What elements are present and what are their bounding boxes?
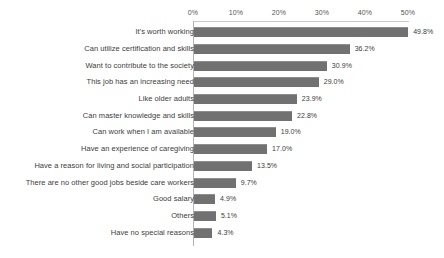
bar-row: Want to contribute to the society30.9% [0, 57, 444, 74]
bar [194, 27, 408, 37]
bar-row: Can work when I am available19.0% [0, 124, 444, 141]
bar-and-value: 36.2% [194, 44, 375, 54]
category-label: Can master knowledge and skills [83, 111, 194, 121]
bar [194, 127, 276, 137]
category-label: Have no special reasons [111, 228, 194, 238]
bar [194, 61, 327, 71]
bar [194, 194, 215, 204]
bar-and-value: 49.8% [194, 27, 433, 37]
bar-value-label: 13.5% [257, 161, 277, 171]
x-axis-rule [193, 21, 409, 22]
bar-row: Can master knowledge and skills22.8% [0, 107, 444, 124]
bar-and-value: 23.9% [194, 94, 322, 104]
category-label: Like older adults [139, 94, 194, 104]
bar-chart: 0%10%20%30%40%50% It's worth working49.8… [0, 0, 444, 258]
bar-and-value: 29.0% [194, 77, 344, 87]
bar [194, 77, 319, 87]
bar-row: Good salary4.9% [0, 191, 444, 208]
bar-rows: It's worth working49.8%Can utilize certi… [0, 24, 444, 241]
bar-and-value: 4.9% [194, 194, 236, 204]
bar-row: Have a reason for living and social part… [0, 158, 444, 175]
bar-value-label: 30.9% [332, 61, 352, 71]
x-axis-tick-label: 50% [401, 8, 415, 17]
bar-value-label: 49.8% [413, 27, 433, 37]
category-label: This job has an increasing need [87, 77, 194, 87]
bar-and-value: 5.1% [194, 211, 237, 221]
category-label: Have a reason for living and social part… [34, 161, 194, 171]
bar [194, 178, 236, 188]
bar-row: There are no other good jobs beside care… [0, 174, 444, 191]
bar-row: Have no special reasons4.3% [0, 224, 444, 241]
category-label: Want to contribute to the society [85, 61, 194, 71]
category-label: Others [171, 211, 194, 221]
bar-and-value: 4.3% [194, 228, 234, 238]
bar-and-value: 17.0% [194, 144, 292, 154]
category-label: Can work when I am available [93, 127, 194, 137]
category-label: Can utilize certification and skills [84, 44, 194, 54]
bar-value-label: 23.9% [302, 94, 322, 104]
bar-row: Have an experience of caregiving17.0% [0, 141, 444, 158]
bar-row: Can utilize certification and skills36.2… [0, 41, 444, 58]
x-axis-tick-label: 20% [272, 8, 286, 17]
bar-value-label: 22.8% [297, 111, 317, 121]
bar-row: It's worth working49.8% [0, 24, 444, 41]
bar-row: Like older adults23.9% [0, 91, 444, 108]
bar [194, 111, 292, 121]
bar-value-label: 29.0% [324, 77, 344, 87]
bar-value-label: 19.0% [281, 127, 301, 137]
bar-and-value: 19.0% [194, 127, 301, 137]
bar-and-value: 9.7% [194, 178, 257, 188]
x-axis-tick-label: 0% [188, 8, 198, 17]
bar-and-value: 22.8% [194, 111, 317, 121]
bar [194, 144, 267, 154]
bar-value-label: 9.7% [241, 178, 257, 188]
bar-value-label: 36.2% [355, 44, 375, 54]
category-label: Have an experience of caregiving [81, 144, 194, 154]
category-label: There are no other good jobs beside care… [26, 178, 194, 188]
x-axis-tick-label: 10% [229, 8, 243, 17]
x-axis-tick-label: 40% [358, 8, 372, 17]
bar [194, 161, 252, 171]
bar-row: This job has an increasing need29.0% [0, 74, 444, 91]
bar [194, 228, 212, 238]
bar [194, 44, 350, 54]
bar-row: Others5.1% [0, 208, 444, 225]
bar [194, 211, 216, 221]
bar-value-label: 17.0% [272, 144, 292, 154]
bar [194, 94, 297, 104]
bar-and-value: 30.9% [194, 61, 352, 71]
x-axis-tick-label: 30% [315, 8, 329, 17]
category-label: Good salary [153, 194, 194, 204]
bar-value-label: 4.3% [217, 228, 233, 238]
bar-value-label: 4.9% [220, 194, 236, 204]
x-axis-tick-labels: 0%10%20%30%40%50% [193, 8, 408, 20]
category-label: It's worth working [135, 27, 194, 37]
bar-value-label: 5.1% [221, 211, 237, 221]
bar-and-value: 13.5% [194, 161, 277, 171]
